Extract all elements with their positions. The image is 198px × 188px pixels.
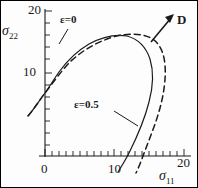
curve-label-eps-0: ε=0	[60, 14, 76, 25]
direction-label-d: D	[177, 13, 186, 26]
direction-arrow-icon	[151, 14, 174, 42]
plot-canvas	[1, 1, 198, 188]
y-axis-label: σ22	[2, 24, 18, 41]
x-axis-label: σ11	[159, 169, 175, 186]
y-tick-label-10: 10	[23, 65, 36, 78]
eps-0-leader-line	[59, 29, 68, 44]
x-axis-ticks	[45, 149, 184, 156]
curve-label-eps-0-5: ε=0.5	[74, 99, 99, 110]
x-tick-label-10: 10	[108, 162, 121, 175]
axis-lines	[39, 9, 191, 157]
y-axis-ticks	[45, 11, 52, 145]
x-tick-label-0: 0	[41, 162, 48, 175]
x-tick-label-20: 20	[177, 156, 190, 169]
y-tick-label-20: 20	[28, 3, 41, 16]
figure-container: σ22 σ11 20 10 0 10 20 ε=0 ε=0.5 D	[0, 0, 198, 188]
eps-0-5-leader-line	[114, 111, 138, 126]
